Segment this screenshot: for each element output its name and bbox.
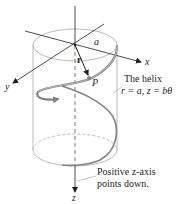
- helix-caption-title: The helix: [124, 74, 162, 84]
- helix-diagram: a r P x y z The helix r = a, z = bθ Posi…: [0, 0, 185, 204]
- z-note-line2: points down.: [97, 179, 149, 189]
- helix-caption-equation: r = a, z = bθ: [121, 86, 172, 96]
- z-note-line1: Positive z-axis: [97, 167, 156, 177]
- y-axis: [13, 24, 104, 83]
- y-axis-label: y: [5, 82, 9, 92]
- z-axis-label: z: [72, 194, 76, 204]
- point-p-label: P: [92, 78, 98, 88]
- radius-label: a: [94, 37, 99, 47]
- position-vector-label: r: [77, 55, 81, 65]
- z-note-leader-line: [77, 176, 96, 181]
- diagram-graphics: [0, 0, 185, 204]
- origin-point: [74, 44, 77, 47]
- helix-curve-lower: [62, 86, 116, 165]
- x-axis-label: x: [145, 57, 149, 67]
- point-p-marker: [87, 76, 91, 80]
- x-axis: [25, 31, 141, 62]
